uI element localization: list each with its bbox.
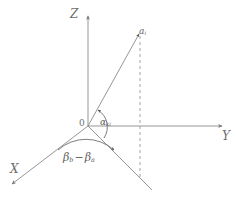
azimuth-angle-arc	[58, 139, 114, 150]
minus-operator: −	[73, 151, 84, 164]
y-axis-label: Y	[222, 130, 230, 142]
azimuth-angle-label: βb−βa	[63, 152, 95, 164]
elevation-angle-subscript: ki	[106, 121, 111, 127]
coordinate-system-diagram	[0, 0, 236, 202]
origin-label: 0	[79, 119, 85, 128]
elevation-angle-label: αki	[100, 118, 111, 127]
x-axis-label: X	[10, 163, 19, 175]
vector-a-i-line	[88, 34, 139, 126]
beta-2-subscript: a	[91, 156, 95, 164]
azimuth-reference-ray	[88, 126, 152, 190]
vector-a-i-label: ai	[139, 27, 146, 36]
z-axis-label: Z	[70, 8, 78, 20]
figure-canvas: Z Y X 0 ai αki βb−βa	[0, 0, 236, 202]
vector-subscript: i	[144, 30, 146, 36]
